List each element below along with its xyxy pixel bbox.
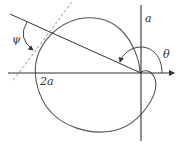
a-label: a — [145, 12, 152, 25]
psi-arc — [23, 22, 33, 50]
psi-label: ψ — [12, 33, 21, 46]
radius-line — [10, 14, 141, 73]
cardioid-diagram: ψ θ a 2a — [0, 0, 179, 144]
tangent-line — [12, 2, 72, 82]
theta-label: θ — [163, 48, 170, 61]
two-a-label: 2a — [39, 75, 54, 88]
